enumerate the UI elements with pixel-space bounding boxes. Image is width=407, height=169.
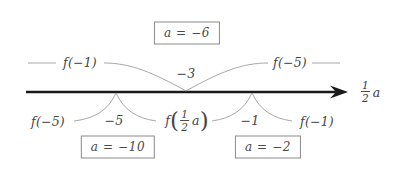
number-line-figure: a = −6 f(−1) −3 f(−5) 1 2 a f(−5) −5 f( … [0, 0, 407, 169]
boxed-note-bottom-right: a = −2 [235, 136, 301, 159]
label-below-far-left: f(−5) [31, 116, 65, 129]
label-below-center-function: f( 1 2 a) [165, 109, 209, 133]
label-below-far-right: f(−1) [300, 116, 334, 129]
center-function-denominator: 2 [179, 121, 190, 133]
right-paren-icon: ) [200, 111, 209, 130]
label-below-right: −1 [241, 115, 260, 128]
axis-label-denominator: 2 [360, 92, 371, 104]
axis-label-variable: a [371, 85, 380, 100]
center-function-variable: a [190, 115, 200, 128]
number-line-axis [26, 86, 348, 99]
boxed-note-top: a = −6 [154, 22, 220, 45]
label-above-right: f(−5) [273, 57, 307, 70]
axis-label-fraction: 1 2 [360, 80, 371, 104]
axis-label-numerator: 1 [360, 80, 371, 92]
center-function-numerator: 1 [179, 109, 190, 121]
center-function-fraction: 1 2 [179, 109, 190, 133]
left-paren-icon: ( [170, 111, 179, 130]
label-above-center: −3 [177, 68, 196, 81]
upper-right-curve [186, 63, 268, 91]
boxed-note-bottom-left: a = −10 [81, 136, 155, 159]
axis-variable-label: 1 2 a [360, 80, 380, 104]
upper-left-curve [104, 63, 186, 91]
label-above-left: f(−1) [63, 57, 97, 70]
label-below-left: −5 [105, 115, 124, 128]
